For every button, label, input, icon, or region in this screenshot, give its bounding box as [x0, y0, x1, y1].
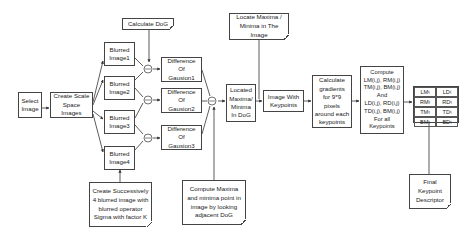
dog-1-box: Difference Of Gausion1: [161, 57, 202, 82]
locate-maxima-note: Locate Maxima / Minima in The Image: [229, 13, 289, 40]
table-cell-tm: TMij: [414, 107, 436, 117]
located-maxima-box: Located Maxima/ Minima In DoG: [226, 84, 256, 122]
table-cell-td: TDij: [436, 107, 458, 117]
calculate-dog-note: Calculate DoG: [122, 18, 174, 30]
dog-2-box: Difference Of Gausion2: [161, 88, 202, 113]
blurred-image-2-box: Blurred Image2: [104, 76, 135, 100]
dog-2-label: Difference Of Gausion2: [167, 88, 195, 113]
dog-3-box: Difference Of Gausion3: [161, 125, 202, 150]
locate-maxima-note-label: Locate Maxima / Minima in The Image: [232, 13, 286, 40]
image-with-keypoints-label: Image With Keypoints: [268, 93, 299, 110]
table-cell-rd: RDij: [436, 97, 458, 107]
compute-descriptor-label: Compute LM(i,j), RM(i,j) TM(i,j), BM(i,j…: [364, 69, 400, 132]
successive-blur-note-label: Create Successively 4 blurred image with…: [92, 187, 148, 223]
cell-sub: ij: [450, 110, 452, 114]
calculate-dog-label: Calculate DoG: [128, 20, 168, 29]
image-with-keypoints-box: Image With Keypoints: [263, 90, 304, 112]
cell-sub: ij: [450, 90, 452, 94]
cell-sub: ij: [428, 90, 430, 94]
blurred-image-3-box: Blurred Image3: [104, 110, 135, 134]
cell-sub: ij: [428, 110, 430, 114]
calculate-gradients-box: Calculate gradients for 9*9 pixels aroun…: [312, 75, 352, 128]
create-scale-space-box: Create Scale Space Images: [50, 92, 93, 118]
cell-sub: ij: [429, 100, 431, 104]
table-cell-rm: RMij: [414, 97, 436, 107]
table-cell-bm: BMij: [414, 117, 436, 127]
cell-label: TD: [443, 109, 450, 115]
cell-label: BD: [442, 119, 450, 125]
cell-label: RM: [420, 99, 429, 105]
cell-label: RD: [442, 99, 450, 105]
compute-maxima-note: Compute Maxima and minima point in image…: [182, 180, 246, 225]
blurred-image-1-label: Blurred Image1: [109, 46, 130, 63]
final-descriptor-note: Final Keypoint Descriptor: [409, 174, 451, 209]
cell-sub: ij: [428, 120, 430, 124]
blurred-image-3-label: Blurred Image3: [109, 114, 130, 131]
successive-blur-note: Create Successively 4 blurred image with…: [89, 182, 152, 227]
dog-1-label: Difference Of Gausion1: [167, 57, 195, 82]
cell-label: LD: [443, 89, 450, 95]
compute-descriptor-box: Compute LM(i,j), RM(i,j) TM(i,j), BM(i,j…: [360, 66, 404, 134]
cell-sub: ij: [450, 100, 452, 104]
table-cell-bd: BDij: [436, 117, 458, 127]
table-cell-ld: LDij: [436, 87, 458, 97]
calculate-gradients-label: Calculate gradients for 9*9 pixels aroun…: [315, 76, 349, 126]
blurred-image-4-box: Blurred Image4: [104, 146, 135, 170]
blurred-image-4-label: Blurred Image4: [109, 150, 130, 167]
table-cell-lm: LMij: [414, 87, 436, 97]
select-image-box: Select Image: [18, 92, 42, 118]
cell-sub: ij: [450, 120, 452, 124]
compute-maxima-note-label: Compute Maxima and minima point in image…: [187, 185, 241, 221]
create-scale-space-label: Create Scale Space Images: [52, 92, 91, 117]
descriptor-table: LMij LDij RMij RDij TMij TDij BMij BDij: [413, 86, 459, 123]
cell-label: TM: [420, 109, 428, 115]
blurred-image-2-label: Blurred Image2: [109, 80, 130, 97]
final-descriptor-note-label: Final Keypoint Descriptor: [416, 178, 444, 205]
cell-label: LM: [420, 89, 428, 95]
located-maxima-label: Located Maxima/ Minima In DoG: [229, 86, 252, 119]
dog-3-label: Difference Of Gausion3: [167, 125, 195, 150]
select-image-label: Select Image: [21, 97, 38, 114]
blurred-image-1-box: Blurred Image1: [104, 42, 135, 66]
